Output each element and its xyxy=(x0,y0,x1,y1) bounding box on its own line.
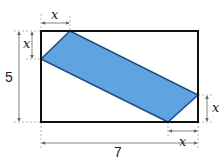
label-right-x: x xyxy=(212,100,220,115)
geometry-diagram: x x 5 x x 7 xyxy=(0,0,223,158)
label-bottom-x: x xyxy=(179,134,187,149)
label-left-x: x xyxy=(23,36,31,51)
shaded-parallelogram xyxy=(41,31,198,122)
label-top-x: x xyxy=(51,7,59,22)
label-width: 7 xyxy=(114,144,122,158)
label-height: 5 xyxy=(5,69,13,85)
